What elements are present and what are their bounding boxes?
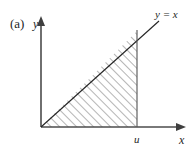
curve-label-y-equals-x: y = x <box>154 8 178 20</box>
x-tick-label-u: u <box>134 133 140 145</box>
shaded-region-hatch <box>41 31 137 127</box>
x-axis-label: x <box>178 133 185 147</box>
y-axis <box>37 16 45 127</box>
x-axis-arrowhead <box>176 123 186 131</box>
triangle-region-figure: (a) y x y = x u <box>0 0 195 151</box>
triangle-hatch-fill <box>41 31 137 127</box>
y-axis-label: y <box>32 17 39 31</box>
panel-label: (a) <box>10 16 24 31</box>
figure-container: (a) y x y = x u <box>0 0 195 151</box>
